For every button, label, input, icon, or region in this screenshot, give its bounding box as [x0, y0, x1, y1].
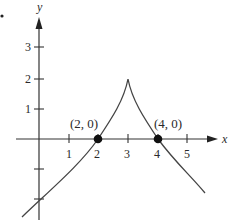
x-tick-label-5: 5 — [184, 147, 190, 161]
y-tick-label-3: 3 — [25, 40, 31, 54]
y-tick-label-1: 1 — [25, 102, 31, 116]
bullet-dot — [0, 14, 3, 17]
graph: y x 1 2 3 4 5 3 2 1 (2, 0) (4, 0) — [0, 0, 239, 224]
point-4-0 — [154, 135, 163, 144]
x-tick-label-4: 4 — [154, 147, 160, 161]
x-tick-label-2: 2 — [94, 147, 100, 161]
y-tick-label-2: 2 — [25, 72, 31, 86]
x-axis-arrow-icon — [207, 136, 218, 143]
function-curve — [22, 79, 205, 217]
x-tick-label-1: 1 — [66, 147, 72, 161]
x-tick-label-3: 3 — [124, 147, 130, 161]
point-2-0 — [94, 135, 103, 144]
point-label-4-0: (4, 0) — [154, 116, 182, 131]
y-axis-label: y — [36, 0, 43, 14]
x-axis-label: x — [221, 132, 228, 146]
point-label-2-0: (2, 0) — [70, 116, 98, 131]
y-axis-arrow-icon — [36, 17, 43, 29]
